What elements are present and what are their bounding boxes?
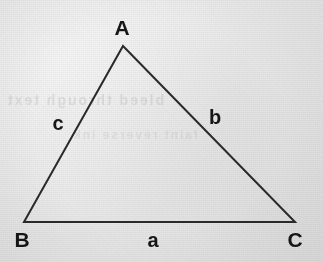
triangle-outline-path — [24, 46, 295, 222]
figure-canvas: bleed through text faint reverse ink A B… — [0, 0, 323, 262]
triangle-shape — [0, 0, 323, 262]
vertex-label-b: B — [14, 229, 29, 250]
side-label-a: a — [147, 230, 158, 250]
side-label-c: c — [52, 113, 63, 133]
vertex-label-a: A — [114, 17, 129, 38]
vertex-label-c: C — [287, 229, 302, 250]
side-label-b: b — [209, 107, 221, 127]
